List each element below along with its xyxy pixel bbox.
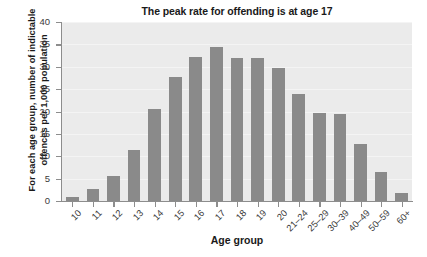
x-tick-label: 40–49 <box>346 208 371 233</box>
x-tick-mark <box>278 202 279 207</box>
bar <box>272 68 285 201</box>
y-tick-mark <box>56 44 61 45</box>
bar <box>128 150 141 201</box>
y-tick-mark <box>56 134 61 135</box>
y-axis-title: For each age group, number of indictable… <box>26 0 50 200</box>
x-tick-mark <box>155 202 156 207</box>
x-tick-label: 30–39 <box>326 208 351 233</box>
x-tick-label: 25–29 <box>305 208 330 233</box>
bar <box>107 176 120 202</box>
y-tick-label: 0 <box>45 196 50 206</box>
y-tick-mark <box>56 201 61 202</box>
y-tick-mark <box>56 112 61 113</box>
y-tick-label: 15 <box>39 129 50 139</box>
bar <box>313 113 326 201</box>
x-tick-mark <box>175 202 176 207</box>
y-tick-label: 10 <box>39 151 50 161</box>
bar <box>169 77 182 201</box>
x-tick-mark <box>113 202 114 207</box>
x-tick-mark <box>402 202 403 207</box>
bar <box>292 94 305 201</box>
bar <box>148 109 161 201</box>
x-tick-mark <box>196 202 197 207</box>
x-tick-label: 14 <box>151 208 165 222</box>
bar <box>251 58 264 201</box>
x-tick-label: 17 <box>213 208 227 222</box>
y-tick-mark <box>56 179 61 180</box>
y-tick-mark <box>56 67 61 68</box>
x-tick-label: 13 <box>131 208 145 222</box>
y-tick-label: 20 <box>39 107 50 117</box>
plot-area <box>62 22 412 201</box>
x-tick-mark <box>72 202 73 207</box>
x-tick-mark <box>340 202 341 207</box>
y-tick-label: 35 <box>39 39 50 49</box>
x-tick-label: 16 <box>193 208 207 222</box>
bar-chart-figure: The peak rate for offending is at age 17… <box>0 0 427 257</box>
x-tick-mark <box>361 202 362 207</box>
y-tick-mark <box>56 22 61 23</box>
x-tick-label: 21–24 <box>284 208 309 233</box>
x-tick-mark <box>258 202 259 207</box>
x-tick-mark <box>134 202 135 207</box>
x-tick-label: 11 <box>90 208 104 222</box>
y-tick-mark <box>56 89 61 90</box>
x-tick-mark <box>93 202 94 207</box>
x-tick-mark <box>381 202 382 207</box>
y-axis-line <box>61 22 62 202</box>
y-tick-label: 25 <box>39 84 50 94</box>
x-tick-label: 50–59 <box>367 208 392 233</box>
bar <box>189 57 202 201</box>
x-axis-title: Age group <box>62 234 412 246</box>
bar <box>375 172 388 201</box>
chart-title: The peak rate for offending is at age 17 <box>62 5 412 17</box>
x-tick-label: 10 <box>69 208 83 222</box>
x-tick-label: 20 <box>275 208 289 222</box>
x-tick-mark <box>216 202 217 207</box>
bar <box>334 114 347 201</box>
x-tick-mark <box>299 202 300 207</box>
x-tick-label: 60+ <box>395 208 413 226</box>
x-tick-mark <box>237 202 238 207</box>
x-tick-label: 19 <box>254 208 268 222</box>
bar <box>210 47 223 201</box>
gridline <box>62 44 412 45</box>
bar <box>354 144 367 201</box>
bar <box>231 58 244 201</box>
y-tick-label: 40 <box>39 17 50 27</box>
y-tick-mark <box>56 156 61 157</box>
x-tick-mark <box>319 202 320 207</box>
x-tick-label: 18 <box>234 208 248 222</box>
gridline <box>62 22 412 23</box>
bar <box>87 189 100 201</box>
y-tick-label: 5 <box>45 174 50 184</box>
y-tick-label: 30 <box>39 62 50 72</box>
x-tick-label: 12 <box>110 208 124 222</box>
x-tick-label: 15 <box>172 208 186 222</box>
